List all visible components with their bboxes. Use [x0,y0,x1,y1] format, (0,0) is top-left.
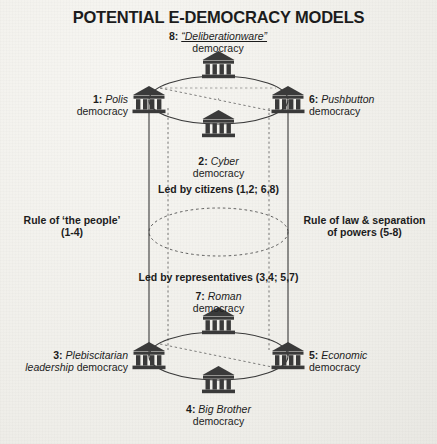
label-node-3-name2-ital: leadership [25,361,73,373]
label-axis-right-line2: of powers (5-8) [327,226,402,238]
diagram-canvas: POTENTIAL E-DEMOCRACY MODELS [0,0,437,444]
label-node-1-num: 1: [93,93,102,105]
label-node-3: 3: Plebiscitarian leadership democracy [0,349,128,374]
temple-icon-node-8 [202,51,235,78]
label-node-1-name: Polis [105,93,128,105]
label-axis-left-line1: Rule of ‘the people’ [24,214,121,226]
label-node-8-name: “Deliberationware” [181,30,267,42]
label-node-6: 6: Pushbutton democracy [309,93,435,118]
label-node-8-name2: democracy [192,42,243,54]
label-node-7-name2: democracy [193,302,244,314]
label-node-2-num: 2: [198,155,207,167]
label-node-5-name: Economic [321,349,367,361]
label-node-7: 7: Roman democracy [148,290,289,315]
label-node-4-name: Big Brother [198,403,251,415]
label-axis-right: Rule of law & separation of powers (5-8) [292,214,437,239]
label-axis-left: Rule of ‘the people’ (1-4) [2,214,142,239]
label-axis-left-line2: (1-4) [61,226,83,238]
label-node-3-name2-tail: democracy [74,361,128,373]
label-node-4-name2: democracy [193,415,244,427]
label-node-7-num: 7: [195,290,204,302]
label-upper-band: Led by citizens (1,2; 6,8) [128,183,309,195]
label-node-8-num: 8: [169,30,178,42]
label-axis-right-line1: Rule of law & separation [304,214,426,226]
label-node-7-name: Roman [208,290,242,302]
label-node-2-name: Cyber [211,155,239,167]
label-node-5-name2: democracy [309,361,360,373]
label-node-2-name2: democracy [193,167,244,179]
label-node-3-name2: leadership democracy [25,361,128,373]
label-node-3-num: 3: [53,349,62,361]
label-lower-band: Led by representatives (3,4; 5,7) [116,271,321,283]
label-node-5-num: 5: [309,349,318,361]
label-node-6-name2: democracy [309,105,360,117]
label-node-6-num: 6: [309,93,318,105]
label-node-8: 8: “Deliberationware” democracy [118,30,318,55]
label-node-4-num: 4: [186,403,195,415]
label-node-1: 1: Polis democracy [6,93,128,118]
label-node-6-name: Pushbutton [321,93,374,105]
label-node-1-name2: democracy [77,105,128,117]
label-node-4: 4: Big Brother democracy [148,403,289,428]
label-node-2: 2: Cyber democracy [148,155,289,180]
label-node-3-name: Plebiscitarian [66,349,128,361]
label-node-5: 5: Economic democracy [309,349,435,374]
